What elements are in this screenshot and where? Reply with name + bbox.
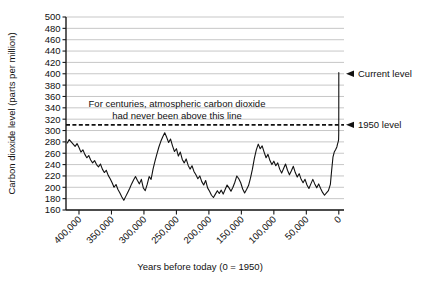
y-tick-label: 180: [45, 193, 61, 204]
y-tick-label: 480: [45, 23, 61, 34]
y-tick-label: 280: [45, 136, 61, 147]
annotation-line-1: For centuries, atmospheric carbon dioxid…: [89, 98, 266, 109]
chart-background: [0, 0, 426, 286]
y-tick-label: 500: [45, 11, 61, 22]
y-tick-label: 300: [45, 125, 61, 136]
x-axis-title: Years before today (0 = 1950): [137, 261, 263, 272]
y-tick-label: 400: [45, 68, 61, 79]
y-tick-labels: 1601802002202402602803003203403603804004…: [45, 11, 61, 215]
chart-canvas: 1601802002202402602803003203403603804004…: [0, 0, 426, 286]
y-tick-label: 200: [45, 182, 61, 193]
y-tick-label: 260: [45, 148, 61, 159]
y-tick-label: 340: [45, 102, 61, 113]
y-tick-label: 220: [45, 170, 61, 181]
y-tick-label: 420: [45, 57, 61, 68]
level-1950-label: 1950 level: [358, 119, 401, 130]
annotation-centuries-note: For centuries, atmospheric carbon dioxid…: [89, 98, 266, 121]
co2-chart: 1601802002202402602803003203403603804004…: [0, 0, 426, 286]
y-tick-label: 380: [45, 80, 61, 91]
current-level-label: Current level: [358, 68, 412, 79]
y-tick-label: 320: [45, 114, 61, 125]
y-tick-label: 460: [45, 34, 61, 45]
y-tick-label: 360: [45, 91, 61, 102]
y-tick-label: 240: [45, 159, 61, 170]
y-tick-label: 440: [45, 45, 61, 56]
y-axis-title: Carbon dioxide level (parts per million): [6, 32, 17, 194]
y-tick-label: 160: [45, 204, 61, 215]
annotation-line-2: had never been above this line: [112, 110, 241, 121]
